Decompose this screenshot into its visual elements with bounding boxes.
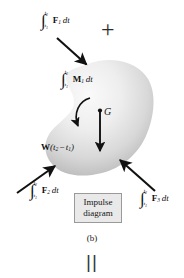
f1-impulse-arrow [57,38,87,65]
force-subscript: 2 [47,189,50,195]
limit-upper: t2 [65,69,72,76]
m1-moment-label: ∫t2t1M1 dt [61,73,93,87]
equality-bars: || [0,252,184,271]
integral-limits: t2t1 [65,73,72,87]
limit-lower: t1 [144,201,151,208]
limit-lower: t1 [45,23,52,30]
dt-symbol: dt [162,193,169,203]
dt-symbol: dt [52,185,59,195]
figure-caption: (b) [0,233,184,243]
moment-vector-symbol: M [73,74,82,84]
weight-time-expression: (t2 − t1) [50,142,74,152]
f2-impulse-label: ∫t2t1F2 dt [30,184,59,198]
f1-impulse-label: ∫t2t1F1 dt [41,14,70,28]
impulse-diagram-box: Impulse diagram [74,193,122,223]
center-of-mass-label: G [104,107,111,117]
f3-impulse-label: ∫t2t1F3 dt [140,192,169,206]
dt-symbol: dt [86,74,93,84]
moment-subscript: 1 [81,78,84,84]
weight-impulse-label: W(t2 − t1) [41,143,74,153]
integral-limits: t2t1 [45,14,52,28]
f3-impulse-arrow [120,160,155,191]
limit-upper: t2 [144,188,151,195]
plus-sign: + [101,17,115,41]
limit-lower: t1 [65,82,72,89]
integral-limits: t2t1 [34,184,41,198]
integral-limits: t2t1 [144,192,151,206]
limit-upper: t2 [34,180,41,187]
force-subscript: 1 [58,19,61,25]
impulse-diagram-box-line1: Impulse [84,197,113,208]
limit-upper: t2 [45,10,52,17]
dt-symbol: dt [63,15,70,25]
impulse-diagram-box-line2: diagram [83,208,113,219]
limit-lower: t1 [34,193,41,200]
weight-vector-symbol: W [41,142,50,152]
impulse-diagram-figure: + ∫t2t1F1 dt ∫t2t1M1 dt W(t2 − t1) G ∫t2… [0,0,184,278]
force-subscript: 3 [157,197,160,203]
